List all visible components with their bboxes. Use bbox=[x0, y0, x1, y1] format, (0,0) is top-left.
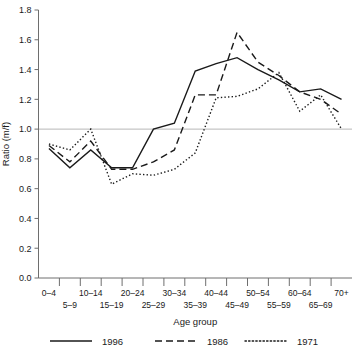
chart-figure: 0.00.20.40.60.81.01.21.41.61.8 0–45–910–… bbox=[0, 0, 358, 357]
x-category-label: 60–64 bbox=[288, 288, 312, 298]
x-axis-title: Age group bbox=[173, 316, 217, 327]
legend-label-1986: 1986 bbox=[207, 336, 228, 347]
y-tick-label: 0.8 bbox=[19, 154, 32, 164]
x-category-label: 40–44 bbox=[204, 288, 228, 298]
x-category-label: 20–24 bbox=[121, 288, 145, 298]
x-axis: 0–45–910–1415–1920–2425–2930–3435–3940–4… bbox=[39, 278, 353, 310]
x-category-label: 25–29 bbox=[142, 300, 166, 310]
series-line-1971 bbox=[49, 73, 342, 185]
x-category-label: 10–14 bbox=[79, 288, 103, 298]
y-tick-label: 0.4 bbox=[19, 214, 32, 224]
y-axis-title: Ratio (m/f) bbox=[0, 122, 11, 166]
data-series-group bbox=[49, 32, 342, 184]
x-category-label: 15–19 bbox=[100, 300, 124, 310]
x-category-label: 35–39 bbox=[183, 300, 207, 310]
x-category-label: 65–69 bbox=[309, 300, 333, 310]
x-category-label: 50–54 bbox=[246, 288, 270, 298]
y-tick-label: 0.6 bbox=[19, 184, 32, 194]
y-tick-label: 0.2 bbox=[19, 244, 32, 254]
y-tick-label: 1.6 bbox=[19, 35, 32, 45]
y-tick-label: 1.2 bbox=[19, 95, 32, 105]
legend-label-1971: 1971 bbox=[297, 336, 318, 347]
y-axis: 0.00.20.40.60.81.01.21.41.61.8 bbox=[19, 5, 39, 283]
y-tick-label: 1.8 bbox=[19, 5, 32, 15]
series-line-1996 bbox=[49, 58, 342, 168]
x-category-label: 70+ bbox=[334, 288, 348, 298]
series-line-1986 bbox=[49, 32, 342, 169]
y-tick-label: 1.0 bbox=[19, 124, 32, 134]
x-category-label: 5–9 bbox=[63, 300, 77, 310]
x-category-label: 30–34 bbox=[163, 288, 187, 298]
y-tick-label: 1.4 bbox=[19, 65, 32, 75]
x-category-label: 55–59 bbox=[267, 300, 291, 310]
x-category-label: 0–4 bbox=[42, 288, 56, 298]
y-tick-label: 0.0 bbox=[19, 273, 32, 283]
x-category-label: 45–49 bbox=[225, 300, 249, 310]
legend-label-1996: 1996 bbox=[102, 336, 123, 347]
line-chart: 0.00.20.40.60.81.01.21.41.61.8 0–45–910–… bbox=[0, 0, 358, 357]
chart-legend: 199619861971 bbox=[50, 336, 318, 347]
